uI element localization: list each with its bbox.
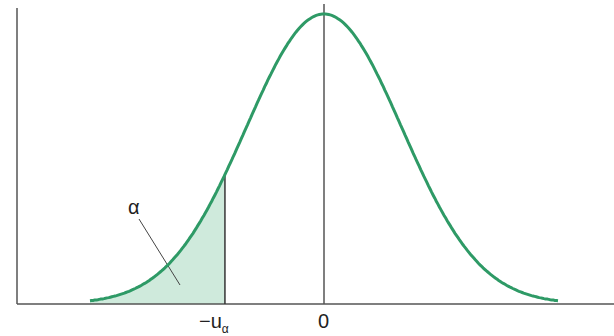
tick-label-zero: 0 [318, 310, 329, 333]
tick-label-text: −u [199, 310, 222, 332]
tick-label-neg-u-alpha: −uα [199, 310, 229, 336]
shaded-tail-area [90, 176, 225, 304]
normal-distribution-chart [0, 0, 614, 336]
alpha-annotation: α [128, 196, 140, 219]
tick-label-subscript: α [222, 322, 229, 336]
